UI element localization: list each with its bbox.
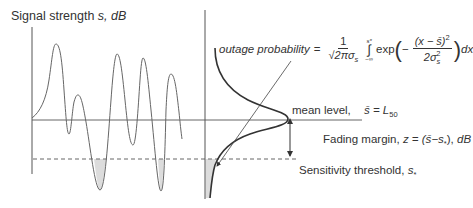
fading-margin-expr-end: ), (447, 133, 454, 145)
fading-diagram: Signal strength s, dB outage probability… (0, 0, 473, 208)
integral: s* ∫ −∞ (365, 38, 373, 62)
fading-margin-expr: z = (s̄−s (403, 133, 444, 145)
integral-symbol: ∫ (367, 44, 371, 56)
inner-minus: − (402, 44, 409, 56)
mean-level-sub: 50 (389, 110, 397, 119)
sensitivity-threshold-label: Sensitivity threshold, s* (299, 165, 416, 179)
y-axis-label-text: Signal strength (11, 9, 98, 23)
right-paren: ) (454, 39, 461, 61)
fraction-numerator: 1 (338, 36, 348, 49)
exp-function: exp (376, 44, 395, 56)
exponent-denominator: 2σs2 (422, 49, 443, 66)
fading-margin-unit: dB (457, 133, 471, 145)
mean-level-label: mean level, s̄ = L50 (292, 105, 398, 119)
y-axis-label-unit: , dB (104, 9, 126, 23)
integral-lower-limit: −∞ (365, 56, 373, 62)
fading-margin-label: Fading margin, z = (s̄−s*), dB (323, 134, 471, 148)
y-axis-label: Signal strength s, dB (11, 10, 126, 23)
mean-level-text: mean level, (292, 104, 351, 116)
fraction-denominator: √2πσs (327, 49, 361, 64)
dx: dx (461, 44, 473, 56)
exponent-numerator: (x − s̄)2 (413, 34, 452, 49)
mean-level-expr: s̄ = L (364, 104, 389, 116)
outage-probability-label: outage probability (219, 44, 310, 56)
exponent-fraction: (x − s̄)2 2σs2 (413, 34, 452, 66)
normalizing-fraction: 1 √2πσs (327, 36, 361, 64)
sensitivity-threshold-text: Sensitivity threshold, (299, 164, 404, 176)
formula-equals: = (314, 44, 321, 56)
fading-margin-text: Fading margin, (323, 133, 400, 145)
left-paren: ( (395, 39, 402, 61)
outage-pointer-arrow (217, 61, 291, 166)
outage-probability-formula: outage probability = 1 √2πσs s* ∫ −∞ exp… (219, 34, 473, 66)
sensitivity-threshold-sub: * (413, 170, 416, 179)
distribution-curve (210, 48, 288, 198)
